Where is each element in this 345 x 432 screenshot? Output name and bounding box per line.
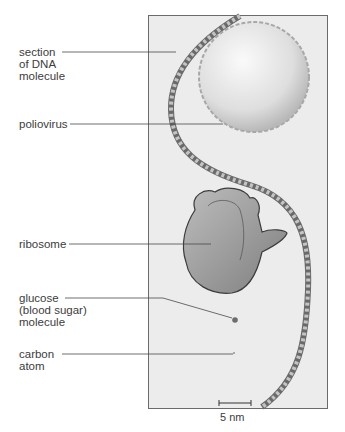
label-glucose-line3: molecule bbox=[19, 316, 87, 328]
scale-bar-label: 5 nm bbox=[220, 411, 244, 423]
label-glucose-line2: (blood sugar) bbox=[19, 304, 87, 316]
ribosome-shape bbox=[183, 188, 287, 293]
label-ribosome: ribosome bbox=[19, 238, 66, 250]
label-dna: section of DNA molecule bbox=[19, 46, 65, 82]
label-poliovirus: poliovirus bbox=[19, 118, 68, 130]
label-carbon-line2: atom bbox=[19, 360, 54, 372]
label-dna-line1: section bbox=[19, 46, 65, 58]
label-dna-line3: molecule bbox=[19, 70, 65, 82]
label-dna-line2: of DNA bbox=[19, 58, 65, 70]
label-carbon: carbon atom bbox=[19, 348, 54, 372]
glucose-dot bbox=[232, 317, 238, 323]
label-glucose: glucose (blood sugar) molecule bbox=[19, 292, 87, 328]
label-glucose-line1: glucose bbox=[19, 292, 87, 304]
poliovirus-shape bbox=[199, 22, 309, 132]
scale-bar bbox=[219, 400, 251, 406]
carbon-dot bbox=[233, 352, 235, 354]
label-carbon-line1: carbon bbox=[19, 348, 54, 360]
